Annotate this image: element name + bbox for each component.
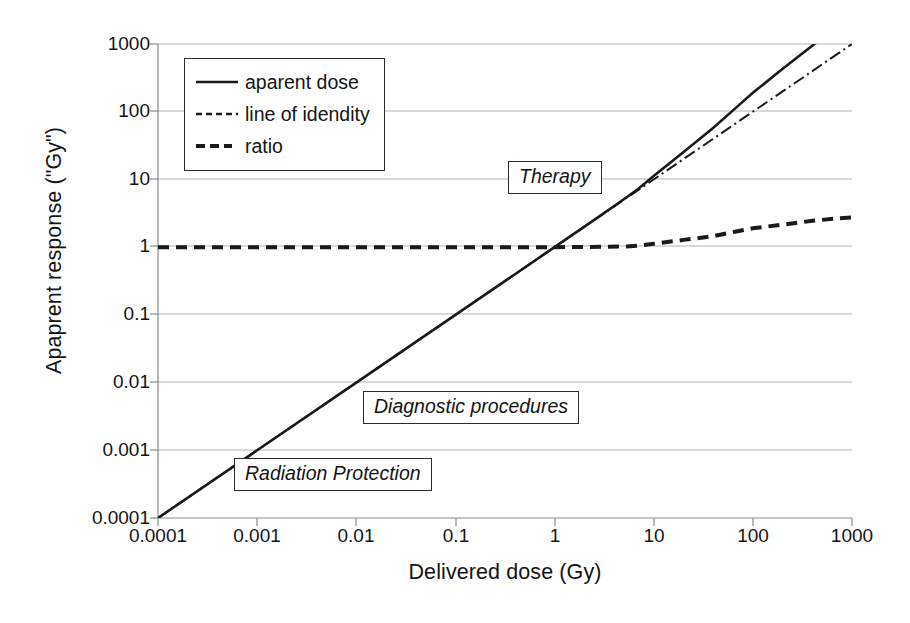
legend-item: line of idendity bbox=[195, 98, 370, 130]
legend-label: ratio bbox=[245, 135, 283, 158]
annotation-diagnostic-procedures: Diagnostic procedures bbox=[363, 391, 579, 424]
y-axis-ticks bbox=[150, 44, 158, 518]
annotation-radiation-protection: Radiation Protection bbox=[234, 458, 432, 491]
plot-area bbox=[0, 0, 910, 623]
bold-dashed-line-swatch bbox=[195, 139, 239, 153]
chart-figure: Apaprent response ("Gy") Delivered dose … bbox=[0, 0, 910, 623]
chart-legend: aparent dose line of idendity ratio bbox=[184, 58, 385, 171]
legend-label: line of idendity bbox=[245, 103, 370, 126]
legend-item: ratio bbox=[195, 130, 370, 162]
x-axis-ticks bbox=[158, 518, 852, 526]
solid-line-swatch bbox=[195, 75, 239, 89]
legend-item: aparent dose bbox=[195, 66, 370, 98]
dashed-line-swatch bbox=[195, 107, 239, 121]
series-ratio bbox=[158, 217, 852, 247]
annotation-therapy: Therapy bbox=[508, 161, 602, 194]
legend-label: aparent dose bbox=[245, 71, 359, 94]
